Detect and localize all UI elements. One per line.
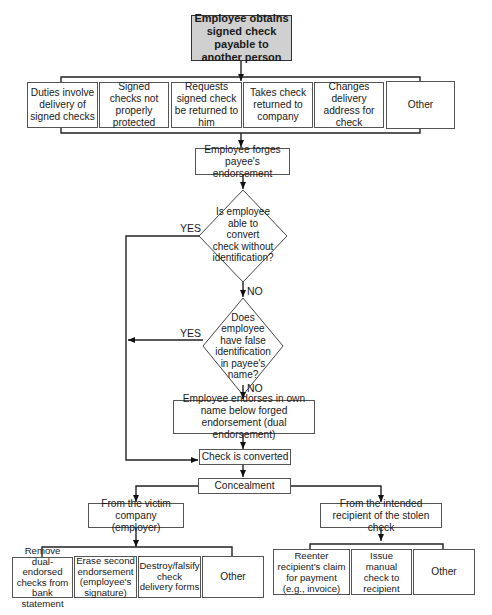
method-text: Changes delivery address for check [316,81,382,129]
intended-recipient-box: From the intended recipient of the stole… [320,503,442,528]
dual-endorsement-text: Employee endorses in own name below forg… [175,393,313,441]
decision1-no-label: NO [247,285,263,297]
intended-recipient-text: From the intended recipient of the stole… [322,498,440,534]
decision2-text: Does employee have false identification … [215,310,271,382]
victim-item-box: Destroy/falsify check delivery forms [138,556,201,598]
method-box: Signed checks not properly protected [99,82,169,128]
recipient-item-box-other: Other [413,549,475,595]
forge-box-text: Employee forges payee's endorsement [197,144,288,180]
victim-company-box: From the victim company (employer) [88,503,184,528]
concealment-text: Concealment [214,480,274,492]
start-box-text: Employee obtains signed check payable to… [193,12,290,64]
victim-item-text: Other [220,571,245,583]
recipient-item-text: Reenter recipient's claim for payment (e… [275,550,348,594]
check-converted-box: Check is converted [199,449,291,465]
victim-item-text: Destroy/falsify check delivery forms [139,561,199,593]
method-box: Changes delivery address for check [314,82,384,128]
dual-endorsement-box: Employee endorses in own name below forg… [173,400,315,434]
check-converted-text: Check is converted [202,451,289,463]
method-box: Takes check returned to company [243,82,313,128]
start-box: Employee obtains signed check payable to… [191,15,292,61]
recipient-item-box: Issue manual check to recipient [351,549,412,595]
recipient-item-box: Reenter recipient's claim for payment (e… [273,549,350,595]
victim-item-box: Erase second endorsement (employee's sig… [74,556,137,598]
victim-item-text: Erase second endorsement (employee's sig… [76,556,135,598]
decision1-yes-label: YES [180,222,201,234]
recipient-item-text: Issue manual check to recipient [353,550,410,594]
method-text: Takes check returned to company [245,87,311,123]
victim-item-text: Remove dual-endorsed checks from bank st… [14,546,71,609]
method-text: Other [408,99,433,111]
method-text: Duties involve delivery of signed checks [29,87,96,123]
method-box-other: Other [386,81,455,129]
decision2-yes-label: YES [180,327,201,339]
victim-item-box: Remove dual-endorsed checks from bank st… [12,557,73,598]
method-text: Signed checks not properly protected [101,81,167,129]
concealment-box: Concealment [198,478,291,494]
victim-company-text: From the victim company (employer) [90,498,182,534]
victim-item-box-other: Other [202,556,264,598]
recipient-item-text: Other [431,566,456,578]
forge-box: Employee forges payee's endorsement [195,148,290,175]
decision1-text: Is employee able to convert check withou… [213,203,273,267]
method-box: Requests signed check be returned to him [171,82,242,128]
method-box: Duties involve delivery of signed checks [27,82,98,128]
method-text: Requests signed check be returned to him [173,81,240,129]
